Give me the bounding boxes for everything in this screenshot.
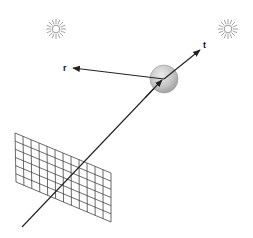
- ray-tracing-diagram: r t: [0, 0, 253, 238]
- image-plane-grid: [15, 133, 111, 222]
- light-source-right-icon: [218, 19, 238, 39]
- transmitted-ray: [164, 50, 200, 79]
- primary-ray: [22, 80, 162, 227]
- light-source-left-icon: [46, 19, 66, 39]
- transmitted-ray-label: t: [203, 40, 206, 50]
- reflected-ray: [73, 68, 164, 79]
- reflected-ray-label: r: [63, 63, 67, 73]
